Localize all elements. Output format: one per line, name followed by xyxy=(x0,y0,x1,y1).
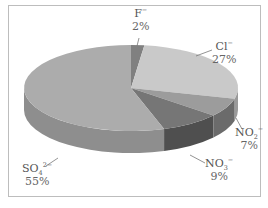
label-no3: NO3− 9% xyxy=(205,157,233,183)
label-no2: NO2− 7% xyxy=(235,126,263,152)
leader-f xyxy=(137,38,139,46)
pie-top xyxy=(24,45,238,131)
leader-cl xyxy=(196,50,212,56)
label-so4: SO42− 55% xyxy=(22,162,52,188)
label-f: F− 2% xyxy=(132,7,149,33)
leader-no3 xyxy=(190,155,205,163)
label-cl: Cl− 27% xyxy=(212,40,236,66)
